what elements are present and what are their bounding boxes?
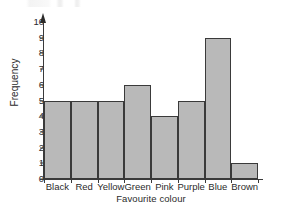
plot-area [44, 22, 258, 179]
x-tick-label: Green [124, 181, 150, 192]
x-tick-label: Purple [177, 181, 204, 192]
x-tick-label: Yellow [97, 181, 124, 192]
bar-chart-figure: Frequency 012345678910 BlackRedYellowGre… [0, 0, 287, 208]
x-tick-label: Brown [231, 181, 258, 192]
bar [231, 163, 258, 179]
bar [44, 101, 71, 180]
x-tick-label: Red [75, 181, 92, 192]
bar [205, 38, 232, 179]
x-tick-label: Pink [155, 181, 173, 192]
bar [98, 101, 125, 180]
x-tick-label: Black [46, 181, 69, 192]
bar [178, 101, 205, 180]
y-axis-title: Frequency [9, 38, 20, 128]
bar [71, 101, 98, 180]
bar [124, 85, 151, 179]
x-tick-label: Blue [208, 181, 227, 192]
x-axis-title: Favourite colour [44, 193, 258, 204]
bar [151, 116, 178, 179]
